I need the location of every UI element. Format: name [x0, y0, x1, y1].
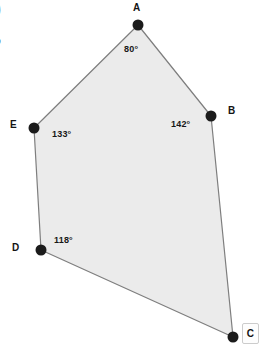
cropped-paren-glyph: ): [0, 0, 6, 20]
polygon-figure: A B C D E 80° 142° 118° 133° ) ?: [0, 0, 264, 349]
angle-label-e: 133°: [52, 130, 71, 139]
vertex-label-e: E: [10, 120, 17, 130]
cropped-question-glyph: ?: [0, 36, 6, 58]
vertex-dot-d: [36, 245, 47, 256]
vertex-dot-e: [29, 123, 40, 134]
vertex-label-a: A: [133, 3, 140, 13]
vertex-label-d: D: [12, 243, 19, 253]
vertex-dot-c: [228, 332, 239, 343]
vertex-dot-a: [133, 20, 144, 31]
vertex-label-c: C: [243, 324, 258, 343]
angle-label-b: 142°: [171, 120, 190, 129]
angle-label-a: 80°: [124, 45, 138, 54]
angle-label-d: 118°: [54, 236, 73, 245]
vertex-dot-b: [206, 111, 217, 122]
vertex-label-c-box[interactable]: C: [242, 323, 259, 344]
vertex-label-b: B: [228, 106, 235, 116]
pentagon-shape: [34, 25, 233, 337]
